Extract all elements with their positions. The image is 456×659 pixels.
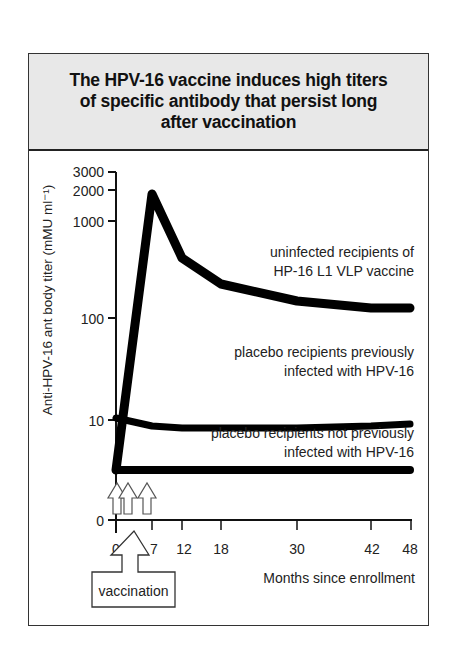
y-tick-1000: 1000 xyxy=(73,214,104,230)
x-tick-18: 18 xyxy=(213,541,229,557)
x-tick-12: 12 xyxy=(176,541,192,557)
x-axis-label: Months since enrollment xyxy=(263,570,415,586)
y-tick-3000: 3000 xyxy=(73,164,104,180)
vaccination-dose-arrows xyxy=(108,483,156,514)
label-not-infected-line2: infected with HPV-16 xyxy=(284,444,414,460)
label-vaccine-line1: uninfected recipients of xyxy=(270,244,414,260)
x-tick-48: 48 xyxy=(402,541,418,557)
line-chart: 3000 2000 1000 100 10 0 Anti-HPV-16 ant … xyxy=(0,0,456,659)
y-axis-label: Anti-HPV-16 ant body titer (mMU ml⁻¹) xyxy=(40,185,55,416)
vaccination-callout: vaccination xyxy=(92,531,175,607)
y-axis: 3000 2000 1000 100 10 0 Anti-HPV-16 ant … xyxy=(40,164,116,533)
label-prev-infected-line2: infected with HPV-16 xyxy=(284,363,414,379)
label-vaccine-line2: HP-16 L1 VLP vaccine xyxy=(273,263,414,279)
series-labels: uninfected recipients of HP-16 L1 VLP va… xyxy=(211,244,414,460)
y-tick-2000: 2000 xyxy=(73,183,104,199)
dose-arrow-icon xyxy=(119,483,137,514)
label-prev-infected-line1: placebo recipients previously xyxy=(234,344,414,360)
callout-label: vaccination xyxy=(98,583,168,599)
x-tick-7: 7 xyxy=(150,541,158,557)
y-tick-10: 10 xyxy=(88,413,104,429)
label-not-infected-line1: placebo recipients not previously xyxy=(211,425,414,441)
x-tick-42: 42 xyxy=(364,541,380,557)
x-tick-30: 30 xyxy=(289,541,305,557)
y-tick-100: 100 xyxy=(81,311,105,327)
y-tick-0: 0 xyxy=(96,513,104,529)
dose-arrow-icon xyxy=(138,483,156,514)
